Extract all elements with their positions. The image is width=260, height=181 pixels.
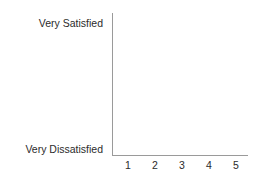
x-axis-line — [112, 155, 248, 156]
x-axis-tick-4: 4 — [199, 159, 219, 172]
y-axis-line — [112, 13, 113, 155]
y-axis-label-very-dissatisfied: Very Dissatisfied — [25, 143, 103, 155]
x-axis-tick-1: 1 — [118, 159, 138, 172]
chart-title-clipped-region — [0, 0, 260, 3]
chart-container: Very Satisfied Very Dissatisfied 1 2 3 4… — [0, 0, 260, 181]
y-axis-label-very-satisfied: Very Satisfied — [39, 17, 103, 29]
x-axis-tick-labels: 1 2 3 4 5 — [112, 159, 248, 173]
x-axis-tick-5: 5 — [226, 159, 246, 172]
x-axis-tick-2: 2 — [145, 159, 165, 172]
x-axis-tick-3: 3 — [172, 159, 192, 172]
plot-area — [113, 13, 248, 155]
